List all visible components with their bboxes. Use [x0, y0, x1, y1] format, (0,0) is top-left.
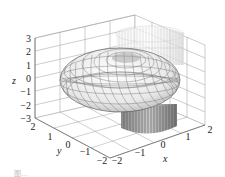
z-tick: −2 — [20, 100, 31, 111]
z-tick: 3 — [26, 33, 31, 44]
z-tick: −1 — [20, 86, 31, 97]
x-tick: −1 — [135, 147, 146, 158]
surface-plot: 3 2 1 0 −1 −2 −3 z 2 1 0 −1 −2 y −2 −1 0… — [0, 0, 225, 177]
y-axis-label: y — [56, 145, 62, 156]
y-tick: 2 — [31, 121, 36, 132]
y-tick: 0 — [66, 139, 71, 150]
y-tick: −2 — [97, 155, 108, 166]
z-tick: −3 — [20, 113, 31, 124]
figure-caption: 图… — [14, 168, 28, 177]
x-tick: 1 — [186, 131, 191, 142]
z-tick: 2 — [26, 46, 31, 57]
z-axis: 3 2 1 0 −1 −2 −3 z — [11, 33, 35, 124]
z-axis-label: z — [11, 75, 16, 86]
x-axis-label: x — [162, 153, 168, 164]
y-tick: 1 — [48, 131, 53, 142]
z-tick: 0 — [26, 73, 31, 84]
y-tick: −1 — [80, 146, 91, 157]
x-tick: 2 — [208, 124, 213, 135]
x-tick: −2 — [112, 155, 123, 166]
x-tick: 0 — [161, 139, 166, 150]
z-tick: 1 — [26, 60, 31, 71]
